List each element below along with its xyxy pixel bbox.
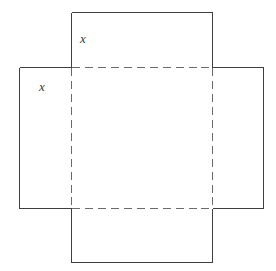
- label-x-top: x: [80, 32, 86, 45]
- diagram-canvas: [0, 0, 276, 271]
- inner-square-fold-lines: [72, 68, 213, 209]
- left-flap: [20, 68, 72, 209]
- right-flap: [213, 68, 264, 209]
- box-net-diagram: x x: [0, 0, 276, 271]
- top-flap: [72, 13, 213, 68]
- label-x-left: x: [39, 80, 45, 93]
- bottom-flap: [72, 209, 213, 263]
